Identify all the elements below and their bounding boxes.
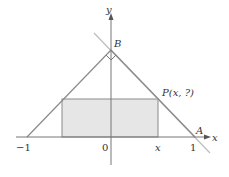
tick-label-neg-one: −1 xyxy=(16,142,31,153)
inscribed-rectangle xyxy=(62,99,158,137)
point-A-label: A xyxy=(195,125,203,136)
y-axis-label: y xyxy=(105,4,112,15)
origin-label: 0 xyxy=(102,142,108,153)
tick-label-one: 1 xyxy=(190,142,196,153)
point-P-label: P(x, ?) xyxy=(161,87,194,98)
point-B-label: B xyxy=(113,38,121,49)
x-axis-arrow-icon xyxy=(204,135,211,140)
triangle-rectangle-diagram: y x B P(x, ?) A −1 0 x 1 xyxy=(0,0,229,177)
x-axis-label: x xyxy=(212,132,218,143)
tick-label-x: x xyxy=(155,142,161,153)
